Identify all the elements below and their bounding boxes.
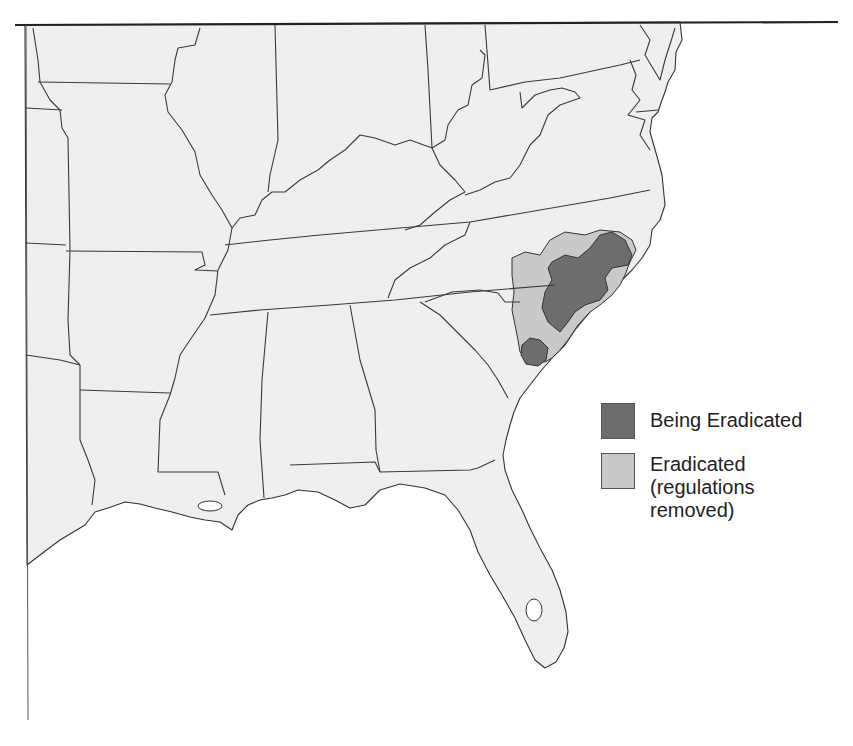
map-legend: Being Eradicated Eradicated (regulations… (601, 403, 802, 536)
legend-item-being-eradicated: Being Eradicated (601, 403, 802, 439)
land-mass (25, 22, 682, 668)
legend-item-eradicated: Eradicated (regulations removed) (601, 453, 802, 522)
lake-okeechobee (526, 599, 542, 621)
lake-pontchartrain (198, 501, 222, 511)
legend-swatch-dark (601, 403, 635, 439)
legend-label: Eradicated (regulations removed) (650, 453, 755, 522)
legend-label: Being Eradicated (650, 409, 802, 432)
southeast-us-map (0, 0, 853, 746)
legend-swatch-light (601, 453, 635, 489)
top-frame-line (15, 22, 838, 25)
